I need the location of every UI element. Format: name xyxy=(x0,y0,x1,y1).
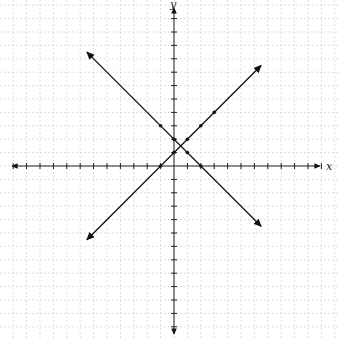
data-point xyxy=(186,137,190,141)
data-point xyxy=(199,124,203,128)
x-axis-label: x xyxy=(326,160,333,173)
data-point xyxy=(199,164,203,168)
data-point xyxy=(159,124,163,128)
y-axis-label: y xyxy=(169,0,177,11)
coordinate-plane: xy xyxy=(0,0,338,339)
data-point xyxy=(186,151,190,155)
data-point xyxy=(159,164,163,168)
data-point xyxy=(172,137,176,141)
data-point xyxy=(212,111,216,115)
graph-svg: xy xyxy=(0,0,338,339)
data-point xyxy=(172,151,176,155)
